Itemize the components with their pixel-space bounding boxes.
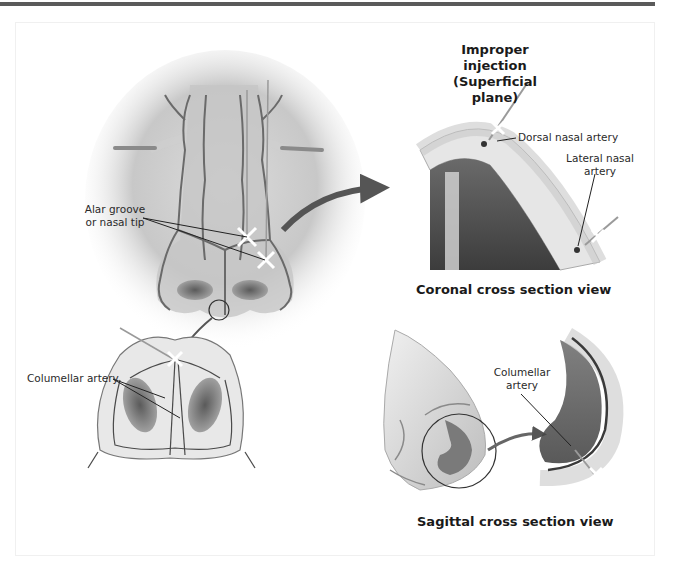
label-lateral-line1: Lateral nasal <box>560 152 640 165</box>
label-columellar-line1: Columellar <box>487 366 557 379</box>
label-alar-line2: or nasal tip <box>80 216 150 229</box>
label-lateral-nasal-artery: Lateral nasal artery <box>560 152 640 178</box>
sagittal-caption: Sagittal cross section view <box>417 514 614 530</box>
label-columellar-line2: artery <box>487 379 557 392</box>
coronal-title: Improper injection (Superficial plane) <box>430 42 560 106</box>
label-columellar-artery-basal: Columellar artery <box>27 372 119 385</box>
coronal-caption: Coronal cross section view <box>416 282 611 298</box>
sagittal-cross-section <box>384 330 616 490</box>
label-alar-groove: Alar groove or nasal tip <box>80 203 150 229</box>
label-columellar-artery-sagittal: Columellar artery <box>487 366 557 392</box>
coronal-title-line1: Improper injection <box>430 42 560 74</box>
label-lateral-line2: artery <box>560 165 640 178</box>
coronal-title-line2: (Superficial plane) <box>430 74 560 106</box>
label-dorsal-nasal-artery: Dorsal nasal artery <box>518 131 618 144</box>
label-alar-line1: Alar groove <box>80 203 150 216</box>
